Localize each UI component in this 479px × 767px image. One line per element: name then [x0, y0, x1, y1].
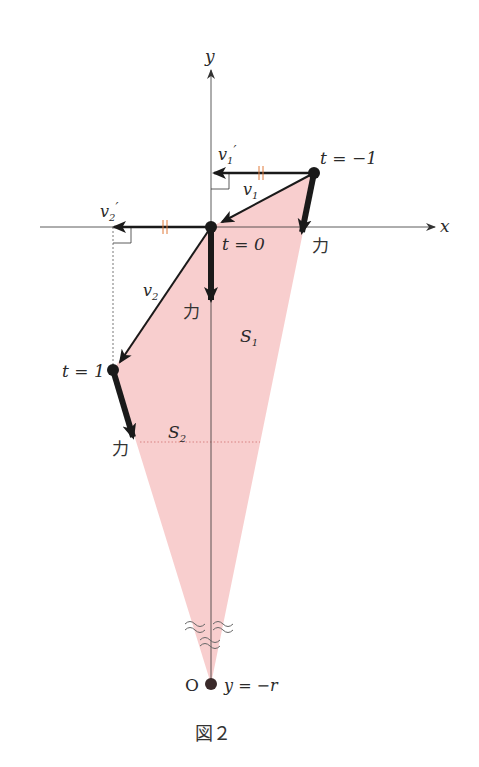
label-v2-prime: v2′	[100, 200, 118, 223]
label-v1: v1	[243, 180, 258, 201]
diagram-canvas: x y t = −1 t = 0 t = 1 O y = −r v1′ v1	[0, 0, 479, 767]
x-axis-label: x	[440, 216, 450, 236]
force-label-t1: 力	[112, 439, 129, 459]
point-t1	[107, 364, 119, 376]
point-t-minus1	[308, 167, 320, 179]
label-t0: t = 0	[222, 234, 265, 254]
label-v1-prime: v1′	[218, 143, 236, 166]
force-label-t0: 力	[183, 302, 200, 322]
force-label-t-minus1: 力	[312, 236, 329, 256]
origin-eq-label: y = −r	[223, 676, 279, 695]
label-v2: v2	[143, 281, 158, 302]
y-axis-label: y	[204, 46, 215, 66]
point-t0	[205, 221, 217, 233]
right-angle-mark-v1	[211, 173, 229, 189]
figure-caption: 図２	[195, 723, 231, 744]
label-t-minus1: t = −1	[320, 148, 377, 168]
origin-point	[205, 678, 217, 690]
origin-label: O	[185, 675, 199, 695]
right-angle-mark-v2	[113, 227, 131, 243]
label-t1: t = 1	[62, 361, 105, 381]
